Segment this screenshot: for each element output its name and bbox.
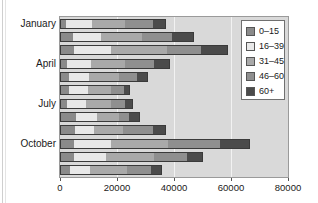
bar-december bbox=[60, 165, 162, 175]
bar-segment bbox=[101, 33, 142, 41]
legend-swatch bbox=[246, 42, 255, 51]
bar-segment bbox=[125, 60, 154, 68]
bar-may bbox=[60, 72, 148, 82]
bar-segment bbox=[153, 126, 165, 134]
bar-segment bbox=[76, 113, 97, 121]
legend-label: 0–15 bbox=[259, 26, 279, 36]
bar-segment bbox=[94, 126, 123, 134]
bar-segment bbox=[168, 140, 220, 148]
bar-segment bbox=[74, 153, 106, 161]
y-axis-label: October bbox=[20, 138, 56, 150]
x-axis-tick-mark bbox=[60, 178, 61, 181]
legend-swatch bbox=[246, 57, 255, 66]
x-axis-tick-label: 20000 bbox=[104, 182, 130, 193]
gridline bbox=[231, 17, 232, 177]
bar-segment bbox=[61, 86, 69, 94]
x-axis-tick-mark bbox=[174, 178, 175, 181]
x-axis-tick-label: 80000 bbox=[275, 182, 301, 193]
bar-segment bbox=[106, 153, 154, 161]
bar-segment bbox=[111, 46, 167, 54]
bar-segment bbox=[153, 20, 166, 28]
bar-segment bbox=[70, 166, 90, 174]
bar-segment bbox=[137, 73, 146, 81]
bar-segment bbox=[61, 126, 75, 134]
bar-segment bbox=[61, 113, 76, 121]
legend-swatch bbox=[246, 27, 255, 36]
bar-segment bbox=[123, 126, 153, 134]
bar-september bbox=[60, 125, 166, 135]
bar-segment bbox=[97, 113, 119, 121]
legend: 0–15 16–39 31–45 46–60 60+ bbox=[241, 20, 285, 100]
legend-item: 16–39 bbox=[246, 40, 284, 52]
page-border-line bbox=[2, 0, 3, 203]
bar-segment bbox=[92, 20, 125, 28]
x-axis-tick-label: 40000 bbox=[161, 182, 187, 193]
bar-segment bbox=[67, 100, 86, 108]
bar-march bbox=[60, 45, 228, 55]
bar-segment bbox=[73, 33, 101, 41]
bar-segment bbox=[125, 100, 132, 108]
bar-segment bbox=[74, 140, 111, 148]
x-axis-tick-label: 0 bbox=[57, 182, 62, 193]
bar-segment bbox=[172, 33, 193, 41]
y-axis-label: January bbox=[20, 18, 56, 30]
bar-june bbox=[60, 85, 130, 95]
legend-item: 0–15 bbox=[246, 25, 279, 37]
bar-segment bbox=[61, 33, 73, 41]
bar-segment bbox=[89, 73, 119, 81]
bar-segment bbox=[220, 140, 249, 148]
bar-segment bbox=[124, 86, 129, 94]
bar-segment bbox=[154, 153, 187, 161]
legend-label: 31–45 bbox=[259, 56, 284, 66]
bar-segment bbox=[86, 100, 111, 108]
bar-segment bbox=[142, 33, 172, 41]
x-axis-tick-label: 60000 bbox=[218, 182, 244, 193]
bar-october bbox=[60, 139, 250, 149]
bar-january bbox=[60, 19, 166, 29]
bar-february bbox=[60, 32, 194, 42]
bar-segment bbox=[69, 86, 88, 94]
legend-item: 60+ bbox=[246, 85, 274, 97]
legend-label: 46–60 bbox=[259, 71, 284, 81]
legend-item: 46–60 bbox=[246, 70, 284, 82]
y-axis-label: April bbox=[36, 58, 56, 70]
bar-segment bbox=[61, 46, 74, 54]
bar-july bbox=[60, 99, 133, 109]
bar-segment bbox=[61, 153, 74, 161]
bar-segment bbox=[75, 126, 95, 134]
bar-segment bbox=[129, 113, 140, 121]
y-axis-label: July bbox=[38, 98, 56, 110]
bar-segment bbox=[111, 86, 124, 94]
bar-segment bbox=[61, 73, 69, 81]
bar-segment bbox=[201, 46, 227, 54]
bar-segment bbox=[151, 166, 161, 174]
legend-swatch bbox=[246, 72, 255, 81]
bar-segment bbox=[90, 166, 126, 174]
page-border-line bbox=[5, 0, 6, 203]
bar-segment bbox=[74, 46, 110, 54]
bar-segment bbox=[111, 140, 167, 148]
legend-item: 31–45 bbox=[246, 55, 284, 67]
bar-segment bbox=[61, 166, 70, 174]
x-axis-tick-mark bbox=[288, 178, 289, 181]
legend-swatch bbox=[246, 87, 255, 96]
bar-segment bbox=[154, 60, 169, 68]
bar-november bbox=[60, 152, 203, 162]
bar-segment bbox=[125, 20, 152, 28]
bar-segment bbox=[167, 46, 201, 54]
bar-segment bbox=[187, 153, 202, 161]
bar-segment bbox=[119, 73, 138, 81]
x-axis-tick-mark bbox=[117, 178, 118, 181]
bar-segment bbox=[88, 86, 111, 94]
legend-label: 60+ bbox=[259, 86, 274, 96]
legend-label: 16–39 bbox=[259, 41, 284, 51]
bar-segment bbox=[119, 113, 129, 121]
bar-segment bbox=[111, 100, 126, 108]
bar-august bbox=[60, 112, 140, 122]
bar-segment bbox=[69, 73, 89, 81]
bar-segment bbox=[66, 20, 93, 28]
bar-segment bbox=[91, 60, 125, 68]
bar-april bbox=[60, 59, 170, 69]
bar-segment bbox=[61, 140, 74, 148]
x-axis-tick-mark bbox=[231, 178, 232, 181]
